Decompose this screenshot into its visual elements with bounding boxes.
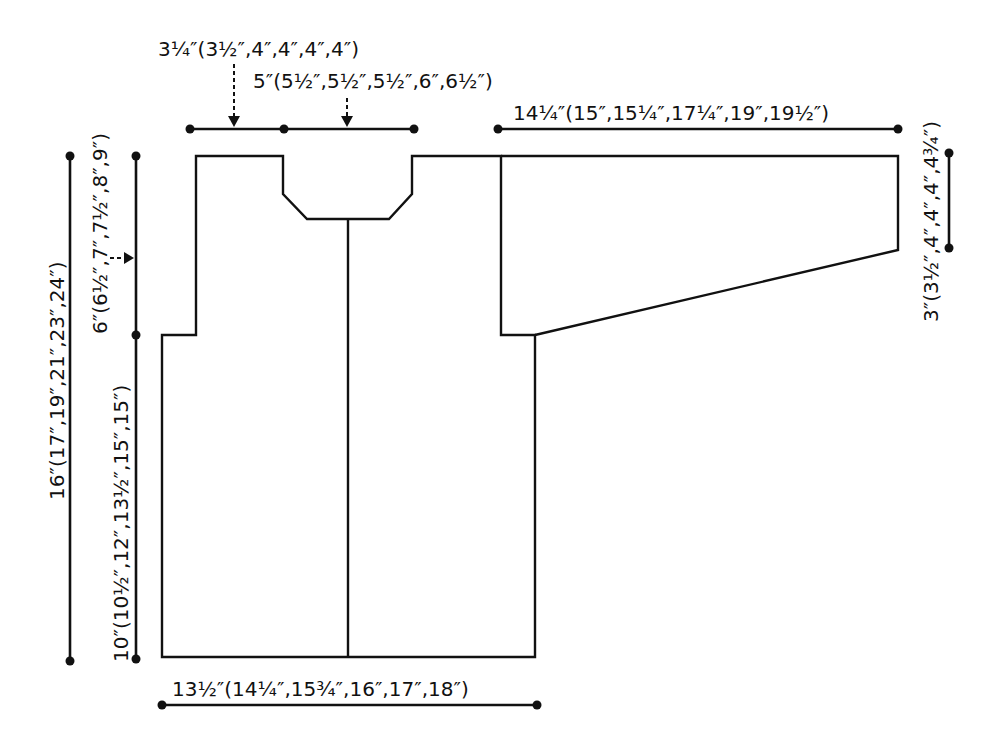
sleeve-outline [501,156,898,335]
endpoint-dot [533,701,542,710]
sleeve-length-dimension [494,125,903,134]
endpoint-dot [280,125,289,134]
endpoint-dot [66,152,75,161]
endpoint-dot [132,331,141,340]
body-length-label: 10″(10½″,12″,13½″,15″,15″) [109,385,133,662]
arrowhead-icon [341,116,353,127]
endpoint-dot [158,701,167,710]
neck-width-label: 5″(5½″,5½″,5½″,6″,6½″) [253,69,493,93]
endpoint-dot [410,125,419,134]
cuff-depth-label: 3″(3½″,4″,4″,4″,4¾″) [919,121,943,322]
endpoint-dot [186,125,195,134]
armhole-depth-label: 6″(6½″,7″,7½″,8″,9″) [88,133,112,334]
endpoint-dot [132,152,141,161]
body-width-label: 13½″(14¼″,15¾″,16″,17″,18″) [172,677,469,701]
total-length-label: 16″(17″,19″,21″,23″,24″) [45,261,69,500]
arrowhead-icon [124,252,134,264]
body-piece [162,156,535,657]
endpoint-dot [66,657,75,666]
endpoint-dot [945,244,954,253]
arrowhead-icon [228,116,240,127]
schematic-canvas: 3¼″(3½″,4″,4″,4″,4″) 5″(5½″,5½″,5½″,6″,6… [0,0,992,737]
sleeve-length-label: 14¼″(15″,15¼″,17¼″,19″,19½″) [513,101,829,125]
body-width-dimension [158,701,542,710]
sleeve-piece [501,156,898,335]
cuff-depth-dimension [945,149,954,253]
shoulder-width-label: 3¼″(3½″,4″,4″,4″,4″) [158,37,359,61]
endpoint-dot [945,149,954,158]
endpoint-dot [494,125,503,134]
endpoint-dot [894,125,903,134]
